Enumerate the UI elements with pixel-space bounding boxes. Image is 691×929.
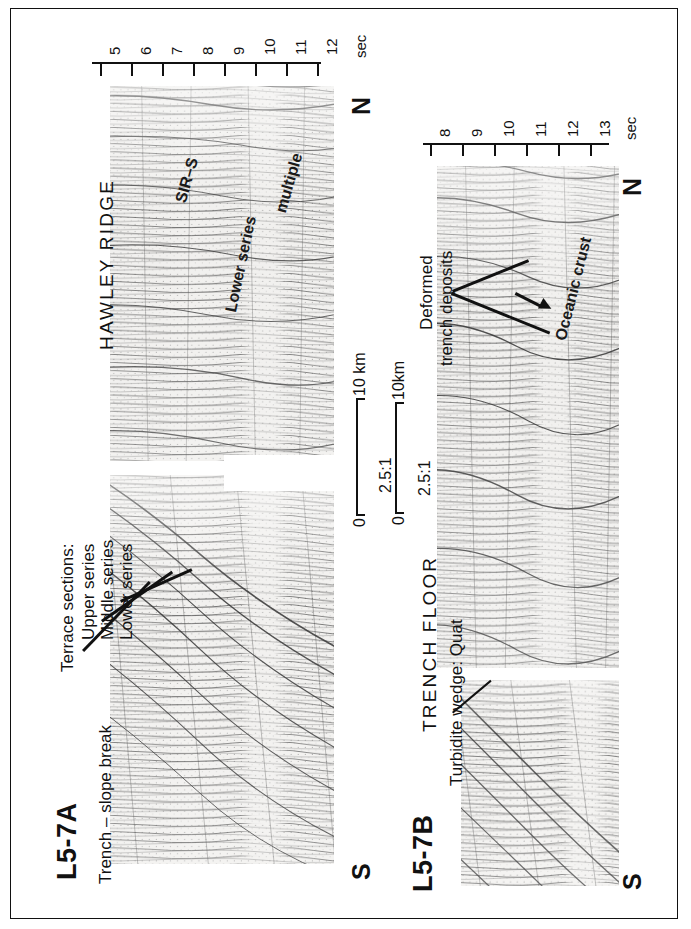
panel-b-scale-exaggeration: 2.5:1	[416, 460, 434, 496]
panel-a-texture	[110, 86, 334, 461]
panel-b-scale-zero: 0	[390, 516, 408, 525]
annot-trench-slope-break: Trench – slope break	[96, 725, 116, 884]
panel-b-tick-13: 13	[596, 120, 613, 137]
panel-a-tick-7: 7	[168, 47, 185, 55]
panel-b-seismic-record-trench-floor	[461, 676, 619, 886]
panel-b-direction-north: N	[618, 178, 647, 196]
annot-terrace-sections-header: Terrace sections:	[58, 544, 78, 673]
panel-a-record-gap-2	[110, 461, 228, 475]
panel-b-texture-trench-floor	[461, 676, 619, 886]
panel-a-tick-6: 6	[137, 47, 154, 55]
panel-b-axis-unit: sec	[622, 117, 639, 140]
panel-a-tick-10: 10	[261, 38, 278, 55]
panel-a-tick-12: 12	[323, 38, 340, 55]
panel-b-tick-12: 12	[564, 120, 581, 137]
annot-deformed-trench-deposits-line1: Deformed	[417, 255, 437, 330]
panel-b-tick-8: 8	[436, 129, 453, 137]
panel-a-tick-5: 5	[106, 47, 123, 55]
panel-a-record-gap	[224, 455, 336, 491]
panel-b-tick-11: 11	[532, 121, 549, 137]
panel-a-direction-north: N	[347, 97, 376, 115]
panel-b-tick-9: 9	[468, 129, 485, 137]
panel-b-region-label: TRENCH FLOOR	[419, 556, 441, 732]
panel-a-seismic-record-continuation	[110, 474, 334, 864]
annot-deformed-trench-deposits-line2: trench deposits	[437, 251, 457, 366]
seismic-profile-figure: 5 6 7 8 9 10 11 12 sec N S	[0, 0, 691, 929]
panel-b-title: L5-7B	[408, 814, 439, 892]
panel-a-scale-exaggeration: 2.5:1	[377, 457, 395, 493]
annot-lower-series-terrace: Lower series	[117, 544, 137, 640]
panel-a-tick-11: 11	[292, 39, 309, 55]
panel-a-scale-length: 10 km	[351, 352, 369, 396]
panel-a-scale-zero: 0	[351, 518, 369, 527]
panel-a-region-label: HAWLEY RIDGE	[96, 179, 118, 350]
panel-a-texture-continuation	[110, 474, 334, 864]
panel-b-scale-length: 10km	[390, 361, 408, 400]
panel-a-tick-8: 8	[199, 47, 216, 55]
panel-a-tick-9: 9	[230, 47, 247, 55]
panel-b-axis-line	[423, 143, 609, 145]
panel-a-direction-south: S	[347, 863, 376, 880]
panel-b-direction-south: S	[618, 873, 647, 890]
panel-a-axis-unit: sec	[352, 35, 369, 58]
panel-a-seismic-record	[110, 86, 334, 461]
annot-upper-series: Upper series	[79, 544, 99, 640]
panel-a-title: L5-7A	[52, 802, 83, 880]
panel-b-tick-10: 10	[500, 120, 517, 137]
